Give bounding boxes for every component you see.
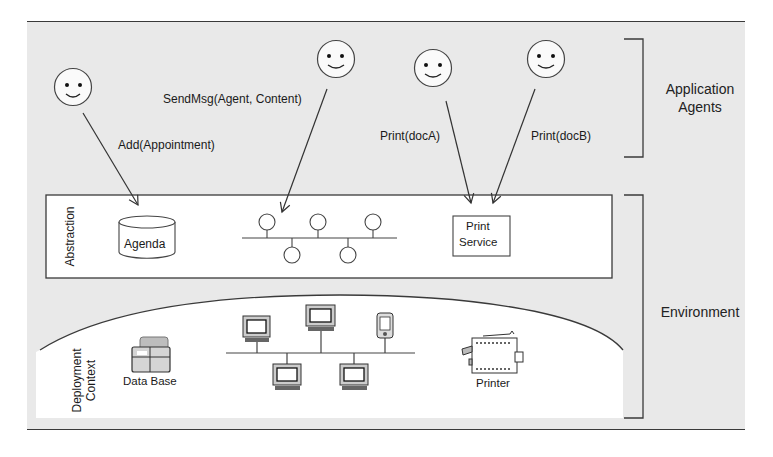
- arrow-sendmsg: [282, 89, 327, 212]
- pda-icon: [377, 313, 393, 338]
- arrow-print-doca: [446, 101, 471, 203]
- smiley-face-icon: [55, 69, 92, 106]
- environment-bracket: [624, 195, 643, 418]
- smiley-face-icon: [415, 50, 452, 87]
- smiley-face-icon: [318, 41, 355, 78]
- architecture-diagram: Add(Appointment) SendMsg(Agent, Content)…: [0, 0, 773, 457]
- environment-label: Environment: [650, 303, 750, 321]
- abstraction-layer-label: Abstraction: [64, 202, 77, 272]
- computer-icon: [243, 316, 270, 342]
- call-label-add-appointment: Add(Appointment): [118, 138, 215, 152]
- agenda-label: Agenda: [124, 237, 165, 251]
- print-service-label-line2: Service: [459, 235, 497, 249]
- database-label: Data Base: [123, 374, 177, 388]
- application-agents-bracket: [624, 39, 643, 157]
- arrow-print-docb: [493, 89, 535, 203]
- printer-label: Printer: [476, 376, 510, 390]
- smiley-face-icon: [528, 41, 565, 78]
- application-agents-label: Application Agents: [650, 80, 750, 116]
- call-label-print-doca: Print(docA): [380, 129, 440, 143]
- computer-icon: [306, 305, 335, 331]
- computer-icon: [273, 364, 301, 390]
- call-label-sendmsg: SendMsg(Agent, Content): [163, 92, 302, 106]
- deployment-context-label-line1: Deployment: [71, 339, 84, 423]
- arrow-add-appointment: [83, 113, 138, 205]
- application-agents-label-line1: Application: [650, 80, 750, 98]
- deployment-context-label-line2: Context: [85, 339, 98, 423]
- diagram-shapes: [0, 0, 773, 457]
- application-agents-label-line2: Agents: [650, 98, 750, 116]
- call-label-print-docb: Print(docB): [531, 129, 591, 143]
- print-service-label-line1: Print: [466, 219, 490, 233]
- computer-icon: [340, 364, 368, 390]
